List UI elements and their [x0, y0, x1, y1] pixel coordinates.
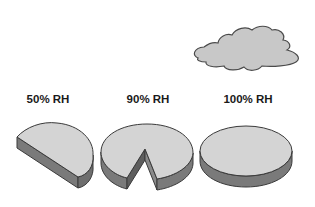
label-50-rh: 50% RH [27, 93, 70, 105]
half-disk-icon [17, 123, 93, 188]
cloud-icon [194, 26, 298, 70]
notched-disk-icon [101, 124, 193, 190]
label-100-rh: 100% RH [223, 93, 272, 105]
full-disk-icon [200, 126, 292, 187]
label-90-rh: 90% RH [127, 93, 170, 105]
